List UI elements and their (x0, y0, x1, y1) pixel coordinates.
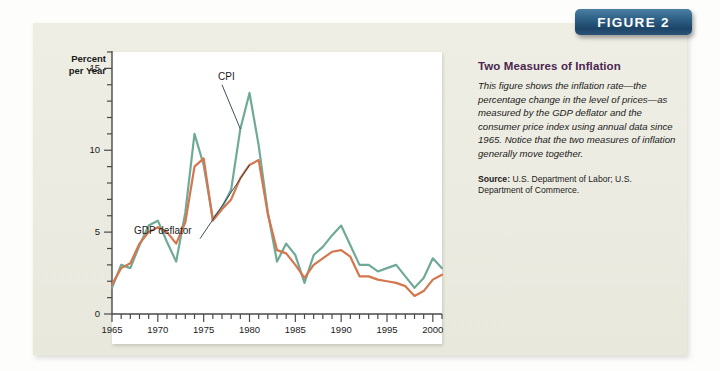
annotation-leader-line (222, 85, 240, 129)
figure-source: Source: U.S. Department of Labor; U.S. D… (478, 174, 678, 197)
x-tick-label: 2000 (413, 324, 453, 335)
x-tick-label: 1995 (367, 324, 407, 335)
figure-title: Two Measures of Inflation (478, 60, 678, 72)
y-axis-title: Percentper Year (26, 53, 106, 76)
x-tick-label: 1980 (230, 324, 270, 335)
source-label: Source: (478, 174, 510, 184)
y-tick-label: 5 (74, 226, 100, 237)
annotation-leader-line (200, 165, 250, 239)
x-tick-label: 1970 (138, 324, 178, 335)
x-tick-label: 1965 (92, 324, 132, 335)
y-axis-title-line2: per Year (26, 65, 106, 77)
x-tick-label: 1985 (275, 324, 315, 335)
x-tick-label: 1990 (321, 324, 361, 335)
x-tick-label: 1975 (184, 324, 224, 335)
text-panel: Two Measures of Inflation This figure sh… (478, 60, 678, 197)
y-tick-label: 10 (74, 144, 100, 155)
y-tick-label: 0 (74, 308, 100, 319)
y-axis-title-line1: Percent (26, 53, 106, 65)
figure-root: FIGURE 2 CPIGDP deflator0510151965197019… (0, 0, 720, 371)
figure-description: This figure shows the inflation rate—the… (478, 79, 678, 161)
series-label-cpi: CPI (218, 71, 235, 82)
series-line-cpi (112, 93, 442, 288)
series-label-gdp-deflator: GDP deflator (134, 225, 192, 236)
